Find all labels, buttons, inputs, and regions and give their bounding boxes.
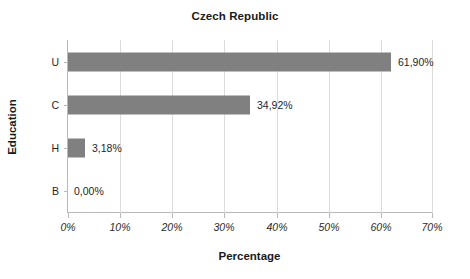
x-tick-mark-40 (277, 213, 278, 218)
x-tick-mark-0 (68, 213, 69, 218)
bar-value-label-b: 0,00% (74, 185, 104, 197)
bar-value-label-c: 34,92% (257, 99, 293, 111)
bar-u[interactable] (68, 52, 391, 71)
bar-row-h: H 3,18% (68, 127, 433, 170)
x-tick-mark-60 (381, 213, 382, 218)
x-axis-title: Percentage (67, 250, 432, 262)
x-tick-label-60: 60% (370, 221, 391, 233)
y-tick-mark-b (64, 191, 68, 192)
x-tick-label-30: 30% (213, 221, 234, 233)
x-tick-label-70: 70% (421, 221, 442, 233)
x-tick-mark-50 (329, 213, 330, 218)
bar-chart: Czech Republic Education U 61,90% C 34,9… (0, 0, 470, 279)
y-tick-label-c: C (51, 99, 59, 111)
plot-area: U 61,90% C 34,92% H 3,18% B 0,00% (67, 40, 432, 213)
x-tick-label-50: 50% (318, 221, 339, 233)
bar-row-c: C 34,92% (68, 83, 433, 126)
y-tick-label-h: H (51, 142, 59, 154)
y-tick-label-b: B (52, 185, 59, 197)
x-tick-mark-70 (432, 213, 433, 218)
y-axis-title-label: Education (6, 99, 18, 155)
x-tick-label-40: 40% (266, 221, 287, 233)
x-tick-label-20: 20% (161, 221, 182, 233)
x-tick-mark-20 (172, 213, 173, 218)
y-tick-label-u: U (51, 56, 59, 68)
x-tick-mark-10 (120, 213, 121, 218)
bar-c[interactable] (68, 95, 250, 114)
bar-row-b: B 0,00% (68, 170, 433, 213)
bar-value-label-u: 61,90% (398, 56, 434, 68)
bar-value-label-h: 3,18% (92, 142, 122, 154)
bar-h[interactable] (68, 139, 85, 158)
chart-title: Czech Republic (0, 10, 470, 22)
bar-row-u: U 61,90% (68, 40, 433, 83)
y-axis-title: Education (2, 40, 22, 213)
x-tick-mark-30 (224, 213, 225, 218)
x-tick-label-10: 10% (109, 221, 130, 233)
x-tick-label-0: 0% (60, 221, 75, 233)
